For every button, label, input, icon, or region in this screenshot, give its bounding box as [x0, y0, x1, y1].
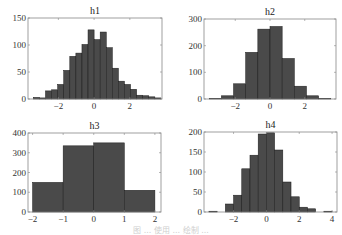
- histogram-bar: [88, 30, 94, 99]
- x-tick-label: −2: [28, 214, 38, 224]
- histogram-bar: [299, 207, 307, 212]
- histogram-bar: [282, 58, 294, 99]
- panel-h4: −2024050100150200h4: [189, 119, 338, 224]
- histogram-bar: [124, 84, 130, 99]
- x-tick-label: 0: [264, 214, 269, 224]
- histogram-bar: [94, 40, 100, 99]
- histogram-bar: [291, 197, 299, 212]
- histogram-bar: [246, 52, 258, 99]
- y-tick-label: 0: [22, 94, 27, 104]
- histogram-bar: [131, 89, 137, 99]
- x-tick-label: −2: [54, 101, 64, 111]
- histogram-bar: [63, 146, 94, 212]
- histogram-bar: [46, 91, 52, 99]
- histogram-bar: [33, 182, 64, 212]
- histogram-bar: [106, 48, 112, 99]
- histogram-bar: [52, 90, 58, 99]
- histogram-bar: [258, 29, 270, 99]
- x-tick-label: −1: [58, 214, 68, 224]
- histogram-bar: [225, 204, 233, 212]
- y-tick-label: 0: [198, 94, 203, 104]
- y-tick-label: 0: [22, 207, 27, 217]
- y-tick-label: 200: [189, 41, 203, 51]
- y-tick-label: 100: [13, 187, 27, 197]
- y-tick-label: 300: [189, 14, 203, 24]
- panel-title: h3: [90, 120, 100, 131]
- histogram-bar: [70, 56, 76, 99]
- x-tick-label: 2: [302, 101, 307, 111]
- x-tick-label: 0: [91, 214, 96, 224]
- histogram-bar: [242, 169, 250, 212]
- panel-title: h4: [266, 119, 276, 130]
- x-tick-label: 2: [128, 101, 133, 111]
- histogram-bar: [250, 155, 258, 212]
- histogram-bar: [137, 95, 143, 99]
- y-tick-label: 100: [13, 40, 27, 50]
- x-tick-label: 2: [153, 214, 158, 224]
- histogram-bar: [58, 84, 64, 99]
- y-tick-label: 400: [13, 128, 27, 138]
- histogram-bar: [270, 26, 282, 99]
- panel-title: h1: [90, 5, 100, 16]
- y-tick-label: 150: [189, 147, 203, 157]
- panel-h3: −2−10120100200300400h3: [13, 120, 162, 224]
- histogram-bar: [266, 133, 274, 212]
- x-tick-label: 0: [268, 101, 273, 111]
- histogram-bar: [82, 44, 88, 99]
- x-tick-label: 2: [297, 214, 302, 224]
- figure-caption: 图 ... 使用 ... 绘制 ...: [0, 224, 342, 235]
- y-tick-label: 200: [189, 127, 203, 137]
- histogram-bar: [283, 182, 291, 212]
- x-tick-label: 1: [122, 214, 127, 224]
- y-tick-label: 200: [13, 168, 27, 178]
- histogram-figure: −202050100150h1 −2020100200300h2 −2−1012…: [0, 0, 342, 235]
- y-tick-label: 0: [198, 207, 203, 217]
- histogram-bar: [112, 68, 118, 99]
- histogram-bar: [124, 190, 155, 212]
- histogram-bar: [118, 81, 124, 99]
- histogram-bar: [143, 96, 149, 99]
- y-tick-label: 100: [189, 67, 203, 77]
- histogram-bar: [221, 96, 233, 99]
- histogram-bar: [306, 96, 318, 99]
- panel-h2: −2020100200300h2: [189, 6, 337, 111]
- x-tick-label: −2: [229, 214, 239, 224]
- panel-title: h2: [265, 6, 275, 17]
- histogram-bar: [234, 84, 246, 99]
- y-tick-label: 50: [17, 67, 27, 77]
- panel-h1: −202050100150h1: [13, 5, 163, 111]
- histogram-bar: [100, 32, 106, 99]
- y-tick-label: 50: [193, 187, 203, 197]
- histogram-bar: [94, 143, 125, 212]
- x-tick-label: 4: [330, 214, 335, 224]
- histogram-bar: [258, 134, 266, 212]
- y-tick-label: 100: [189, 167, 203, 177]
- histogram-bar: [307, 209, 315, 212]
- histogram-bar: [234, 195, 242, 212]
- histogram-bar: [64, 70, 70, 99]
- y-tick-label: 300: [13, 148, 27, 158]
- histogram-bar: [275, 150, 283, 212]
- histogram-bar: [76, 53, 82, 99]
- y-tick-label: 150: [13, 13, 27, 23]
- x-tick-label: 0: [92, 101, 97, 111]
- x-tick-label: −2: [230, 101, 240, 111]
